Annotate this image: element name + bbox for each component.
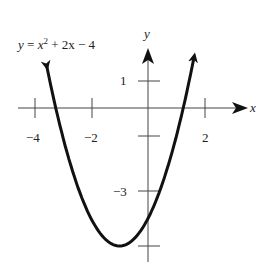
y-tick-label: −3	[113, 184, 127, 199]
x-tick-label: 2	[202, 130, 209, 145]
equation-label: y = x2 + 2x − 4	[16, 36, 96, 52]
y-tick-label: 1	[120, 73, 127, 88]
x-tick-label: −2	[84, 130, 98, 145]
x-tick-label: −4	[26, 130, 40, 145]
y-axis-label: y	[142, 26, 150, 41]
parabola-graph: y = x2 + 2x − 4 y x −4 −2 2 1 −3	[0, 0, 266, 278]
x-axis	[18, 98, 248, 118]
x-axis-label: x	[249, 100, 256, 115]
